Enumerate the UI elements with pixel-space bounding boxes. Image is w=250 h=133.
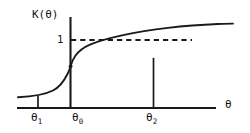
figure-container: K(θ) 1 θ1 θ0 θ2 θ bbox=[0, 0, 250, 133]
theta2-glyph: θ bbox=[146, 111, 153, 124]
y-axis-label: K(θ) bbox=[32, 9, 59, 20]
x-tick-label-theta1: θ1 bbox=[31, 112, 42, 123]
x-tick-label-theta2: θ2 bbox=[146, 112, 157, 123]
theta2-subscript: 2 bbox=[153, 117, 158, 126]
theta0-subscript: 0 bbox=[79, 117, 84, 126]
x-tick-label-theta0: θ0 bbox=[72, 112, 83, 123]
theta0-kink-dot bbox=[69, 64, 73, 68]
theta1-glyph: θ bbox=[31, 111, 38, 124]
y-tick-label-1: 1 bbox=[57, 34, 63, 45]
k-theta-curve bbox=[18, 24, 233, 98]
x-axis-label: θ bbox=[225, 99, 232, 110]
theta1-subscript: 1 bbox=[38, 117, 43, 126]
theta0-glyph: θ bbox=[72, 111, 79, 124]
